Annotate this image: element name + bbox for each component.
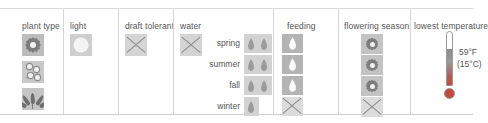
column-header-lowest-temperature: lowest temperature [414, 21, 488, 31]
column-feeding: feeding [273, 9, 338, 114]
x-mark-icon [125, 34, 147, 56]
water-drops-spring [244, 34, 272, 53]
plant-care-table: plant type [0, 8, 473, 115]
column-flowering-season: flowering season [338, 9, 410, 114]
season-label-summer: summer [198, 59, 240, 69]
column-light: light [63, 9, 118, 114]
column-draft-tolerant: draft tolerant [118, 9, 173, 114]
column-lowest-temperature: lowest temperature 59°F (15°C) [410, 9, 473, 114]
flowering-summer [361, 55, 383, 75]
season-label-fall: fall [198, 80, 240, 90]
column-header-plant-type: plant type [22, 21, 60, 31]
draft-tolerant-tile [125, 34, 147, 56]
column-header-water: water [180, 21, 201, 31]
feeding-drop-spring [282, 34, 303, 53]
flowering-spring [361, 34, 383, 54]
flower-icon [22, 34, 44, 56]
column-plant-type: plant type [0, 9, 63, 114]
x-mark-icon [281, 95, 303, 117]
season-label-spring: spring [198, 38, 240, 48]
column-header-light: light [70, 21, 86, 31]
feeding-none-winter [282, 97, 303, 116]
water-drops-summer [244, 55, 272, 74]
feeding-drop-summer [282, 55, 303, 74]
buds-icon [22, 61, 44, 83]
temperature-celsius: (15°C) [457, 59, 482, 70]
sun-icon [70, 34, 92, 56]
column-water: water spring summer fall winter [173, 9, 273, 114]
thermometer-icon [444, 31, 455, 99]
x-mark-icon [361, 96, 383, 118]
feeding-drop-fall [282, 76, 303, 95]
temperature-fahrenheit: 59°F [459, 47, 477, 58]
leafy-plant-icon [22, 88, 44, 110]
flowering-none-winter [361, 97, 383, 117]
column-header-flowering-season: flowering season [344, 21, 409, 31]
flowering-fall [361, 76, 383, 96]
water-drops-winter [244, 97, 259, 116]
water-drops-fall [244, 76, 272, 95]
season-label-winter: winter [198, 101, 240, 111]
column-header-draft-tolerant: draft tolerant [125, 21, 174, 31]
column-header-feeding: feeding [287, 21, 316, 31]
